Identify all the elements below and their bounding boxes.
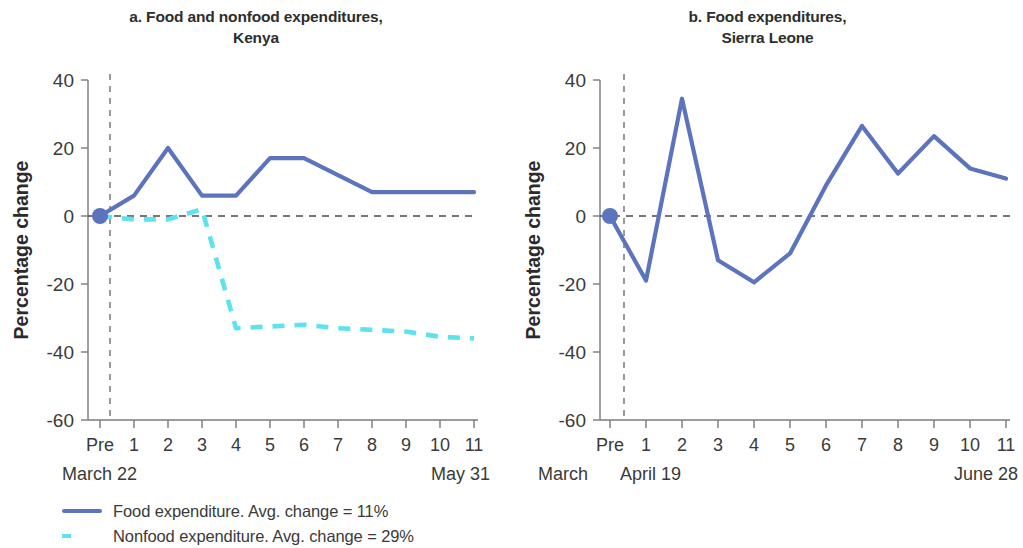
y-label-n60-a: -60 <box>47 410 74 431</box>
x-label-11-a: 11 <box>465 435 484 455</box>
y-label-n20-a: -20 <box>47 274 74 295</box>
legend-item-food-a: Food expenditure. Avg. change = 11% <box>62 498 414 523</box>
panel-a-series <box>92 148 474 338</box>
panel-a-kenya: a. Food and nonfood expenditures, Kenya <box>0 0 512 548</box>
y-label-n20-b: -20 <box>559 274 586 295</box>
x-label-7-b: 7 <box>857 435 867 455</box>
x-label-10-b: 10 <box>960 435 980 455</box>
x-label-6-b: 6 <box>821 435 831 455</box>
series-food-expenditure-a <box>100 148 474 216</box>
legend-label-food-a: Food expenditure. Avg. change = 11% <box>113 499 388 523</box>
legend-swatch-nonfood-dashed-line-icon <box>62 534 102 538</box>
x-label-5-a: 5 <box>265 435 275 455</box>
series-food-expenditure-b <box>610 99 1006 283</box>
panel-a-x-tick-labels: Pre 1 2 3 4 5 6 7 8 9 10 11 <box>86 435 483 455</box>
panel-b-svg: 40 20 0 -20 -40 -60 Percentage change Pr… <box>512 0 1023 500</box>
x-label-pre-b: Pre <box>596 435 624 455</box>
y-label-n40-b: -40 <box>559 342 586 363</box>
x-label-11-b: 11 <box>997 435 1016 455</box>
legend-swatch-food-line-icon <box>62 509 102 513</box>
x-label-9-a: 9 <box>401 435 411 455</box>
panel-b-sierra-leone: b. Food expenditures, Sierra Leone <box>512 0 1023 548</box>
x-label-pre-a: Pre <box>86 435 114 455</box>
panel-a-axes <box>81 74 478 428</box>
x-label-8-b: 8 <box>893 435 903 455</box>
x-label-4-b: 4 <box>749 435 759 455</box>
y-label-n60-b: -60 <box>559 410 586 431</box>
x-axis-end-date-a: May 31 <box>431 464 490 484</box>
legend-item-nonfood-a: Nonfood expenditure. Avg. change = 29% <box>62 523 414 548</box>
y-label-0-a: 0 <box>63 206 74 227</box>
panel-b-y-tick-labels: 40 20 0 -20 -40 -60 <box>559 70 586 431</box>
panel-b-plot-area: 40 20 0 -20 -40 -60 Percentage change Pr… <box>512 0 1023 548</box>
x-label-9-b: 9 <box>929 435 939 455</box>
figure-two-panel-expenditure-charts: a. Food and nonfood expenditures, Kenya <box>0 0 1023 548</box>
x-label-8-a: 8 <box>367 435 377 455</box>
x-label-3-a: 3 <box>197 435 207 455</box>
x-axis-start-date-a: March 22 <box>62 464 137 484</box>
x-axis-start-date-b: April 19 <box>620 464 681 484</box>
x-label-10-a: 10 <box>430 435 450 455</box>
y-axis-title-b: Percentage change <box>522 160 544 339</box>
y-label-40-b: 40 <box>565 70 586 91</box>
x-label-2-a: 2 <box>163 435 173 455</box>
x-label-1-b: 1 <box>641 435 651 455</box>
x-label-2-b: 2 <box>677 435 687 455</box>
panel-a-plot-area: 40 20 0 -20 -40 -60 Percentage change Pr… <box>0 0 512 548</box>
x-label-7-a: 7 <box>333 435 343 455</box>
x-axis-pre-date-b: March <box>538 464 588 484</box>
y-label-20-b: 20 <box>565 138 586 159</box>
x-label-6-a: 6 <box>299 435 309 455</box>
y-label-n40-a: -40 <box>47 342 74 363</box>
y-label-40-a: 40 <box>53 70 74 91</box>
legend-label-nonfood-a: Nonfood expenditure. Avg. change = 29% <box>113 524 414 548</box>
x-label-5-b: 5 <box>785 435 795 455</box>
x-label-3-b: 3 <box>713 435 723 455</box>
panel-b-x-tick-labels: Pre 1 2 3 4 5 6 7 8 9 10 11 <box>596 435 1015 455</box>
x-axis-end-date-b: June 28 <box>954 464 1018 484</box>
series-nonfood-expenditure-a <box>100 209 474 338</box>
pre-period-marker-a <box>92 208 108 224</box>
panel-b-series <box>602 99 1006 283</box>
y-axis-title-a: Percentage change <box>10 160 32 339</box>
panel-a-y-tick-labels: 40 20 0 -20 -40 -60 <box>47 70 74 431</box>
y-label-0-b: 0 <box>575 206 586 227</box>
x-label-1-a: 1 <box>129 435 139 455</box>
panel-a-legend: Food expenditure. Avg. change = 11% Nonf… <box>62 498 414 548</box>
y-label-20-a: 20 <box>53 138 74 159</box>
pre-period-marker-b <box>602 208 618 224</box>
panel-a-svg: 40 20 0 -20 -40 -60 Percentage change Pr… <box>0 0 512 500</box>
x-label-4-a: 4 <box>231 435 241 455</box>
panel-b-axes <box>593 74 1010 428</box>
